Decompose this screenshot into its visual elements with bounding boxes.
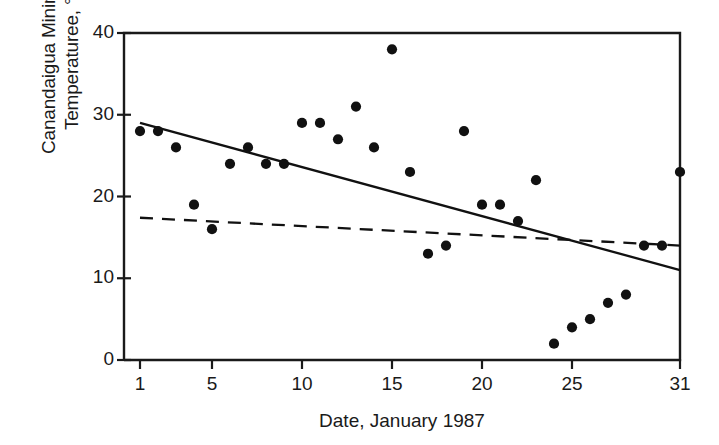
data-point: [585, 314, 595, 324]
data-point: [441, 240, 451, 250]
data-point: [675, 167, 685, 177]
data-point: [207, 224, 217, 234]
data-point: [495, 200, 505, 210]
data-point: [513, 216, 523, 226]
data-point: [333, 134, 343, 144]
plot-area: [0, 0, 719, 445]
data-point: [603, 298, 613, 308]
data-point: [657, 240, 667, 250]
data-point: [225, 159, 235, 169]
data-point: [369, 142, 379, 152]
axis-frame: [124, 33, 680, 360]
data-point: [261, 159, 271, 169]
data-point: [351, 101, 361, 111]
data-point: [243, 142, 253, 152]
data-point: [171, 142, 181, 152]
data-point: [459, 126, 469, 136]
data-point: [387, 44, 397, 54]
data-point: [477, 200, 487, 210]
data-point: [423, 249, 433, 259]
data-point: [621, 290, 631, 300]
data-point: [405, 167, 415, 177]
data-point: [639, 240, 649, 250]
solid-regression-line: [140, 123, 680, 270]
data-point: [297, 118, 307, 128]
data-point: [135, 126, 145, 136]
data-point: [549, 339, 559, 349]
data-point: [531, 175, 541, 185]
dashed-regression-line: [140, 218, 680, 246]
data-point: [189, 200, 199, 210]
data-point: [279, 159, 289, 169]
data-point: [153, 126, 163, 136]
chart-figure: Canandaigua Minimum Temperaturee, °F Dat…: [0, 0, 719, 445]
data-point: [315, 118, 325, 128]
data-point: [567, 322, 577, 332]
